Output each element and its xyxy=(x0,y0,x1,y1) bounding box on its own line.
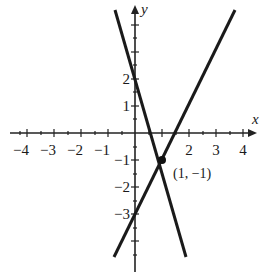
svg-text:1: 1 xyxy=(123,98,131,114)
y-tick-labels: 2 1 −1 −2 −3 xyxy=(114,71,130,222)
svg-text:−3: −3 xyxy=(40,142,56,158)
svg-text:3: 3 xyxy=(212,142,220,158)
svg-text:−1: −1 xyxy=(94,142,110,158)
intersection-point xyxy=(158,156,166,164)
y-axis-arrow-icon xyxy=(131,5,139,14)
svg-text:−2: −2 xyxy=(67,142,83,158)
x-tick-labels: −4 −3 −2 −1 2 3 4 xyxy=(13,142,247,158)
y-axis-label: y xyxy=(139,1,148,17)
svg-text:2: 2 xyxy=(123,71,131,87)
svg-text:2: 2 xyxy=(185,142,193,158)
svg-text:4: 4 xyxy=(239,142,247,158)
point-label: (1, −1) xyxy=(173,166,212,182)
chart-svg: x y −4 −3 −2 −1 2 3 4 2 1 −1 −2 −3 (1, −… xyxy=(0,0,263,277)
chart: x y −4 −3 −2 −1 2 3 4 2 1 −1 −2 −3 (1, −… xyxy=(0,0,263,277)
x-axis-label: x xyxy=(251,111,259,127)
svg-text:−4: −4 xyxy=(13,142,29,158)
svg-text:−3: −3 xyxy=(114,206,130,222)
x-axis-arrow-icon xyxy=(248,129,257,137)
svg-text:−2: −2 xyxy=(114,179,130,195)
svg-text:−1: −1 xyxy=(114,152,130,168)
